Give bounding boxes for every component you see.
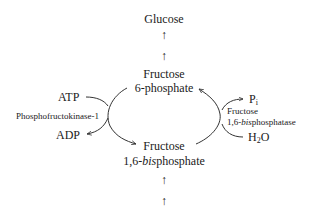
up-arrow-icon: ↑ — [161, 174, 167, 186]
up-arrow-icon: ↑ — [161, 29, 167, 41]
left-main-arc — [108, 88, 136, 144]
fbpase-enzyme-label-line1: Fructose — [227, 107, 258, 116]
right-main-arc — [196, 89, 220, 144]
h2o-label: H2O — [248, 131, 269, 143]
fbpase-enzyme-label-line2: 1,6-bisphosphatase — [227, 118, 296, 127]
adp-label: ADP — [56, 129, 80, 141]
atp-label: ATP — [58, 91, 79, 103]
f16bp-label-line1: Fructose — [143, 140, 184, 152]
pi-label: Pi — [249, 93, 258, 105]
glucose-label: Glucose — [144, 13, 183, 25]
f6p-label-line1: Fructose — [143, 68, 184, 80]
f16bp-label-line2: 1,6-bisphosphate — [123, 155, 205, 167]
atp-in-curve — [86, 97, 108, 106]
up-arrow-icon: ↑ — [161, 195, 167, 207]
up-arrow-icon: ↑ — [161, 50, 167, 62]
f6p-label-line2: 6-phosphate — [135, 82, 194, 94]
pfk1-enzyme-label: Phosphofructokinase-1 — [16, 112, 99, 121]
diagram-arrows — [0, 0, 314, 219]
